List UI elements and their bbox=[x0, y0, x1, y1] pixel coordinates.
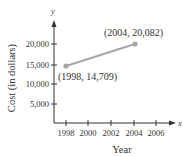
point-label-1998: (1998, 14,709) bbox=[58, 71, 117, 83]
y-tick-label: 15,000 bbox=[26, 60, 49, 70]
point-label-2004: (2004, 20,082) bbox=[104, 27, 163, 39]
data-point-1998 bbox=[63, 63, 68, 68]
x-axis-variable: x bbox=[177, 118, 182, 128]
y-axis-title: Cost (in dollars) bbox=[6, 43, 18, 112]
y-ticks: 20,000 15,000 10,000 5,000 bbox=[26, 39, 57, 109]
x-axis-arrow-icon bbox=[169, 121, 176, 126]
y-tick-label: 10,000 bbox=[26, 79, 49, 89]
x-axis-title: Year bbox=[112, 144, 132, 155]
cost-line bbox=[66, 44, 135, 66]
x-tick-label: 2006 bbox=[148, 128, 165, 138]
x-tick-label: 2002 bbox=[103, 128, 120, 138]
y-axis-arrow-icon bbox=[52, 20, 57, 27]
x-tick-label: 2004 bbox=[126, 128, 144, 138]
y-tick-label: 5,000 bbox=[30, 99, 49, 109]
data-point-2004 bbox=[132, 41, 137, 46]
y-tick-label: 20,000 bbox=[26, 39, 49, 49]
x-tick-label: 2000 bbox=[80, 128, 97, 138]
x-tick-label: 1998 bbox=[58, 128, 75, 138]
line-chart: y x 20,000 15,000 10,000 5,000 1998 2000… bbox=[0, 0, 183, 156]
y-axis-variable: y bbox=[50, 6, 55, 16]
